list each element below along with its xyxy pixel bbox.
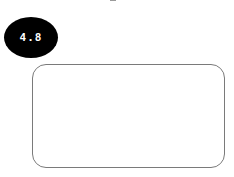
content-card bbox=[32, 64, 225, 168]
rating-value: 4.8 bbox=[20, 31, 43, 44]
rating-badge: 4.8 bbox=[4, 17, 58, 58]
top-edge-mark bbox=[110, 0, 116, 1]
